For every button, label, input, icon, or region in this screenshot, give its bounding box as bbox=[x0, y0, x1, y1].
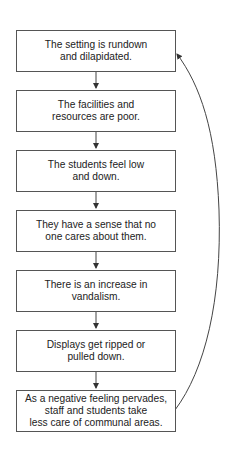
step-4: They have a sense that no one cares abou… bbox=[16, 210, 176, 252]
step-1: The setting is rundown and dilapidated. bbox=[16, 30, 176, 72]
step-6: Displays get ripped or pulled down. bbox=[16, 330, 176, 372]
step-2: The facilities and resources are poor. bbox=[16, 90, 176, 132]
feedback-arrow bbox=[175, 54, 219, 410]
step-3: The students feel low and down. bbox=[16, 150, 176, 192]
step-5: There is an increase in vandalism. bbox=[16, 270, 176, 312]
step-7: As a negative feeling pervades, staff an… bbox=[16, 390, 176, 432]
